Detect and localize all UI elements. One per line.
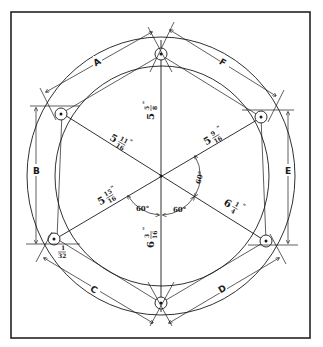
svg-text:6: 6 [145, 241, 156, 248]
chord-label-b: B [33, 166, 40, 176]
svg-text:32: 32 [58, 252, 66, 259]
dim-upper-left-diagonal: 5 11 16 " [107, 128, 134, 153]
dim-bottom-vertical: 6 3 16 " [141, 227, 158, 248]
hexagon-outline [57, 55, 266, 303]
angle-label-bottom-right: 60° [173, 205, 186, 214]
dim-hole-offset: 1 32 [58, 244, 66, 259]
svg-text:1: 1 [61, 244, 65, 251]
holes [48, 48, 272, 309]
dim-lower-left-diagonal: 5 15 16 " [94, 184, 121, 209]
svg-text:5: 5 [145, 113, 156, 120]
vertex-crossings [26, 22, 298, 326]
svg-text:": " [241, 202, 247, 210]
svg-text:": " [215, 124, 221, 132]
svg-text:16: 16 [151, 231, 158, 239]
svg-text:4: 4 [230, 207, 237, 215]
dim-lower-right-diagonal: 6 1 4 " [221, 193, 247, 218]
svg-text:5: 5 [143, 106, 150, 110]
svg-text:8: 8 [151, 106, 158, 110]
svg-text:": " [141, 227, 148, 230]
bolt-circle-diagram: A F B E C D 5 5 8 " 5 11 16 " 5 9 16 " 5… [0, 0, 323, 347]
chord-label-e: E [285, 166, 291, 176]
dim-top-vertical: 5 5 8 " [141, 101, 158, 120]
center-point [160, 175, 163, 178]
svg-text:3: 3 [143, 234, 150, 238]
angle-label-right: 60° [194, 170, 206, 185]
svg-text:": " [141, 101, 148, 104]
dim-upper-right-diagonal: 5 9 16 " [200, 124, 227, 149]
angle-label-bottom-left: 60° [136, 204, 149, 213]
